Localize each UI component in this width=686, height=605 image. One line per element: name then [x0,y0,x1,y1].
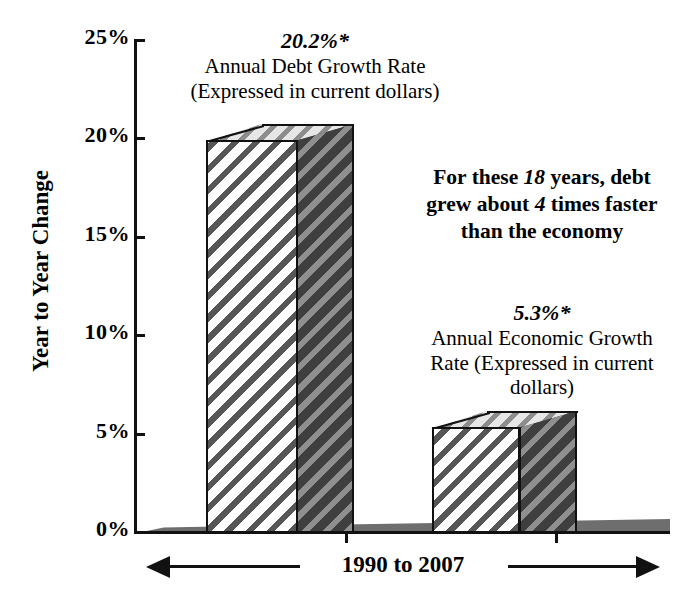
bar-economy-top-edge-back [487,411,578,413]
annotation-debt-percent: 20.2%* [170,28,460,54]
comparison-note-line1: For these 18 years, debt [398,164,686,191]
annotation-economy-percent: 5.3%* [398,300,686,326]
comparison-note-line2-b: times faster [545,192,657,216]
bar-economy-side-face [519,411,577,533]
annotation-debt: 20.2%* Annual Debt Growth Rate (Expresse… [170,28,460,103]
right-arrow-shaft [508,565,638,568]
chart-canvas: Year to Year Change 25% 20% 15% 10% 5% 0… [0,0,686,605]
annotation-debt-line1: Annual Debt Growth Rate [170,54,460,79]
y-axis-title: Year to Year Change [28,156,54,386]
y-tick-mark-20 [134,137,145,140]
comparison-note-years: 18 [524,165,546,189]
y-tick-label-15: 15% [85,221,131,247]
y-tick-mark-25 [134,39,145,42]
annotation-economy-line2: Rate (Expressed in current [398,351,686,376]
bar-debt-top-edge-back [262,124,354,126]
annotation-debt-line2: (Expressed in current dollars) [170,79,460,104]
annotation-economy-line1: Annual Economic Growth [398,326,686,351]
bar-economy-front-face [432,427,520,533]
comparison-note-line2-a: grew about [426,192,534,216]
right-arrow-icon [636,556,660,578]
comparison-note-line1-a: For these [433,165,523,189]
y-tick-label-5: 5% [96,418,130,444]
y-tick-label-10: 10% [85,319,131,345]
bar-debt-front-face [206,140,298,533]
y-tick-mark-15 [134,236,145,239]
bar-debt-side-face [296,124,354,533]
x-axis-range: 1990 to 2007 [130,552,676,582]
y-tick-mark-10 [134,334,145,337]
comparison-note-line2: grew about 4 times faster [398,191,686,218]
y-tick-label-0: 0% [96,516,130,542]
comparison-note-multiple: 4 [535,192,546,216]
annotation-economy: 5.3%* Annual Economic Growth Rate (Expre… [398,300,686,400]
y-tick-mark-5 [134,433,145,436]
comparison-note-line3: than the economy [398,218,686,245]
annotation-comparison-note: For these 18 years, debt grew about 4 ti… [398,164,686,245]
y-axis-line [134,39,137,533]
comparison-note-line1-b: years, debt [545,165,651,189]
annotation-economy-line3: dollars) [398,375,686,400]
y-tick-label-25: 25% [85,24,131,50]
y-tick-label-20: 20% [85,122,131,148]
